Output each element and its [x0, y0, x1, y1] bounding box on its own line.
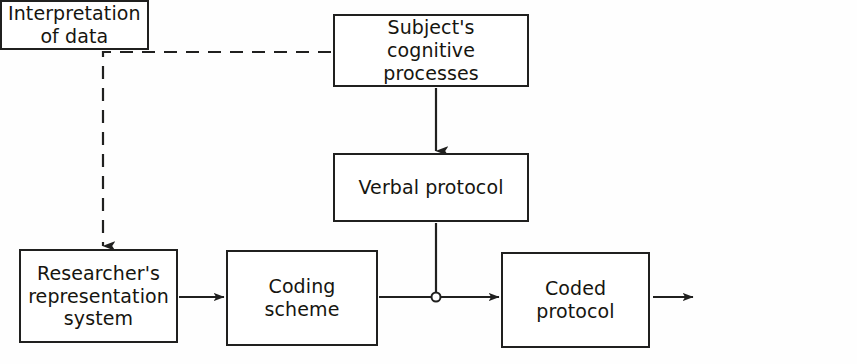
- node-label: Researcher's representation system: [22, 262, 175, 329]
- node-label: Subject's cognitive processes: [335, 16, 527, 86]
- node-verbal-protocol[interactable]: Verbal protocol: [333, 153, 529, 222]
- node-researcher-representation-system[interactable]: Researcher's representation system: [19, 249, 178, 343]
- node-label: Coding scheme: [259, 275, 346, 321]
- node-label: Interpretation of data: [2, 2, 147, 48]
- flow-diagram: Subject's cognitive processes Verbal pro…: [0, 0, 857, 364]
- node-coded-protocol[interactable]: Coded protocol: [501, 252, 650, 348]
- node-label: Coded protocol: [530, 277, 620, 323]
- node-subject-cognitive-processes[interactable]: Subject's cognitive processes: [333, 14, 529, 87]
- node-label: Verbal protocol: [352, 176, 509, 199]
- edge-subject-to-researcher: [103, 52, 331, 246]
- node-coding-scheme[interactable]: Coding scheme: [226, 250, 378, 346]
- merge-junction-node: [432, 293, 441, 302]
- node-interpretation-of-data[interactable]: Interpretation of data: [0, 0, 149, 50]
